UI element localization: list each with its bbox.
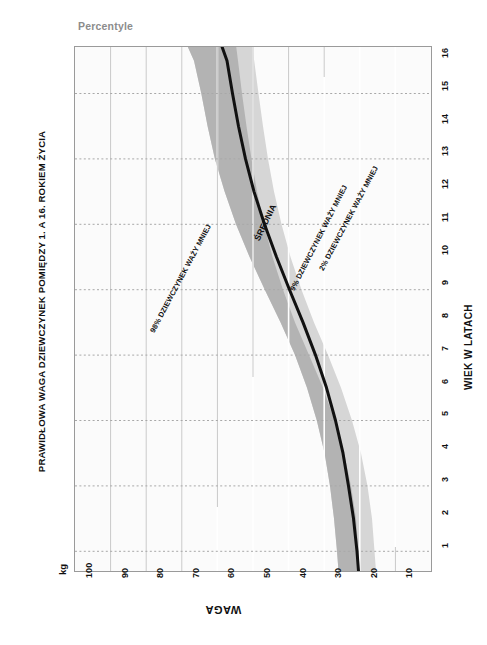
age-tick-11: 11: [440, 212, 450, 222]
weight-tick-50: 50: [262, 568, 272, 578]
age-tick-14: 14: [440, 114, 450, 124]
band-inner-9-98: [185, 47, 360, 571]
page-title: PRAWIDŁOWA WAGA DZIEWCZYNEK POMIĘDZY 1. …: [36, 22, 47, 582]
weight-tick-20: 20: [369, 568, 379, 578]
weight-tick-60: 60: [226, 568, 236, 578]
age-tick-6: 6: [440, 379, 450, 384]
age-tick-4: 4: [440, 444, 450, 449]
growth-chart-svg: [75, 47, 431, 571]
weight-tick-30: 30: [333, 568, 343, 578]
age-tick-13: 13: [440, 146, 450, 156]
weight-tick-90: 90: [120, 568, 130, 578]
age-tick-15: 15: [440, 81, 450, 91]
weight-tick-80: 80: [155, 568, 165, 578]
age-tick-9: 9: [440, 280, 450, 285]
weight-axis-label: WAGA: [205, 604, 241, 616]
chart-plot-area: [74, 46, 432, 572]
age-tick-12: 12: [440, 179, 450, 189]
age-tick-3: 3: [440, 477, 450, 482]
weight-tick-10: 10: [404, 568, 414, 578]
age-tick-16: 16: [440, 48, 450, 58]
age-tick-1: 1: [440, 543, 450, 548]
age-axis-label: WIEK W LATACH: [463, 304, 474, 390]
percentile-caption: Percentyle: [78, 20, 133, 32]
age-tick-10: 10: [440, 245, 450, 255]
age-tick-8: 8: [440, 313, 450, 318]
weight-unit-label: kg: [57, 564, 68, 575]
age-tick-2: 2: [440, 510, 450, 515]
percentile-bands: [185, 47, 376, 571]
weight-tick-40: 40: [298, 568, 308, 578]
weight-tick-70: 70: [191, 568, 201, 578]
age-tick-5: 5: [440, 411, 450, 416]
weight-tick-100: 100: [84, 563, 94, 578]
age-tick-7: 7: [440, 346, 450, 351]
